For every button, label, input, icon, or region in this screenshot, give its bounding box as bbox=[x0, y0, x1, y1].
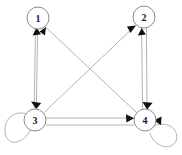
arrowhead-into-4-from-2 bbox=[143, 102, 153, 110]
node-4-label: 4 bbox=[143, 115, 148, 126]
node-2[interactable]: 2 bbox=[133, 6, 155, 28]
node-2-label: 2 bbox=[142, 12, 147, 23]
directed-graph-svg: 1 2 3 4 bbox=[0, 0, 182, 155]
node-3[interactable]: 3 bbox=[24, 109, 46, 131]
edge-1-to-3-line bbox=[36, 30, 37, 108]
edge-2-to-4-line bbox=[146, 28, 147, 109]
edge-4-to-1-line bbox=[46, 27, 137, 113]
graph-diagram-canvas: 1 2 3 4 bbox=[0, 0, 182, 155]
arrowhead-into-4-from-3 bbox=[126, 114, 134, 122]
node-1-label: 1 bbox=[36, 13, 41, 24]
node-4[interactable]: 4 bbox=[134, 109, 156, 131]
self-loop-4-path bbox=[150, 124, 177, 147]
edge-3-to-1-line bbox=[34, 30, 35, 108]
arrowhead-into-3-from-1 bbox=[31, 102, 41, 110]
arrowhead-into-2-from-4 bbox=[138, 28, 146, 36]
edge-4-to-2-line bbox=[142, 28, 143, 109]
node-1[interactable]: 1 bbox=[27, 7, 49, 29]
node-3-label: 3 bbox=[33, 115, 38, 126]
